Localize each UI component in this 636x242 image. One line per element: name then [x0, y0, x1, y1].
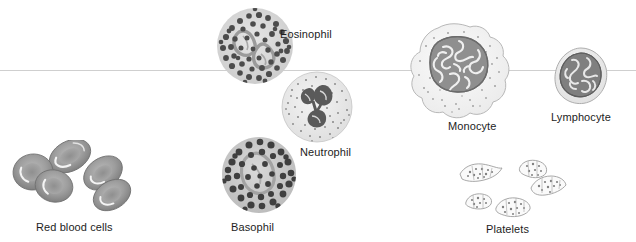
- red-blood-cells-illustration: [8, 140, 138, 220]
- platelets-illustration: [452, 158, 568, 220]
- monocyte-illustration: [404, 20, 518, 124]
- basophil-illustration: [218, 134, 300, 216]
- label-neutrophil: Neutrophil: [300, 146, 351, 158]
- label-lymphocyte: Lymphocyte: [551, 111, 611, 123]
- label-platelets: Platelets: [486, 223, 529, 235]
- label-red-blood-cells: Red blood cells: [36, 221, 113, 233]
- label-basophil: Basophil: [231, 221, 274, 233]
- blood-cells-figure: Red blood cells: [0, 0, 636, 242]
- label-eosinophil: Eosinophil: [280, 28, 332, 40]
- lymphocyte-illustration: [550, 45, 612, 107]
- label-monocyte: Monocyte: [448, 120, 497, 132]
